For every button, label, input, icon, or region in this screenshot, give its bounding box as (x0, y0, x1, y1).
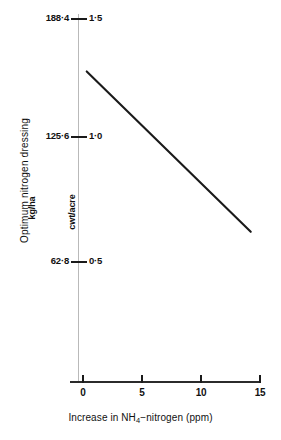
x-axis-tick-5 (141, 375, 143, 383)
y-tick-label-left-group-3: 62·8 (0, 255, 69, 267)
x-axis-tick-label-0: 0 (68, 387, 98, 398)
y-axis-tick-label-cwt-1-5: 1·5 (89, 12, 102, 23)
y-tick-label-left-group-1: 188·4 (0, 12, 69, 24)
x-axis-line (70, 381, 261, 383)
y-tick-label-right-group-1: 1·5 (89, 12, 149, 24)
y-axis-unit-kg-ha: kg/ha (27, 173, 37, 243)
y-axis-tick-label-kgha-188-4: 188·4 (46, 12, 69, 23)
y-axis-unit-cwt-acre: cwt/acre (67, 177, 77, 247)
x-axis-tick-0 (82, 375, 84, 383)
x-axis-tick-label-15: 15 (245, 387, 275, 398)
chart-figure: 188·4 125·6 62·8 1·5 1·0 0·5 0 5 10 15 O… (0, 0, 281, 440)
x-axis-tick-label-10: 10 (186, 387, 216, 398)
y-axis-tick-0-5 (71, 261, 87, 263)
x-axis-tick-label-5: 5 (127, 387, 157, 398)
x-axis-title-subscript: 4 (136, 416, 140, 425)
x-axis-title: Increase in NH4−nitrogen (ppm) (0, 412, 281, 423)
y-axis-line (78, 14, 79, 382)
y-axis-tick-label-kgha-62-8: 62·8 (51, 255, 69, 266)
data-series-line (87, 71, 251, 231)
y-axis-tick-1-0 (71, 136, 87, 138)
x-axis-title-after: −nitrogen (ppm) (140, 412, 212, 423)
plot-area (0, 0, 281, 440)
x-axis-tick-15 (259, 375, 261, 383)
y-axis-tick-label-cwt-1-0: 1·0 (89, 130, 102, 141)
y-tick-label-right-group-2: 1·0 (89, 130, 149, 142)
x-axis-title-before: Increase in NH (68, 412, 136, 423)
x-axis-tick-10 (200, 375, 202, 383)
y-tick-label-right-group-3: 0·5 (89, 255, 149, 267)
y-axis-tick-label-cwt-0-5: 0·5 (89, 255, 102, 266)
y-axis-tick-1-5 (71, 18, 87, 20)
y-axis-tick-label-kgha-125-6: 125·6 (46, 130, 69, 141)
y-tick-label-left-group-2: 125·6 (0, 130, 69, 142)
